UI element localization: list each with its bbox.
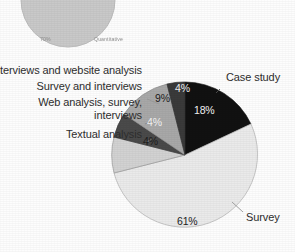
percent-web-analysis-survey-interviews: 4% <box>147 116 162 128</box>
figure-canvas: 70% Quantitative Interviews and w <box>0 0 295 252</box>
label-web-analysis-line-2: interviews <box>2 109 142 122</box>
label-web-analysis-line-1: Web analysis, survey, <box>2 96 142 109</box>
percent-survey-and-interviews: 9% <box>155 92 170 104</box>
percent-case-study: 18% <box>194 104 214 116</box>
percent-textual-analysis: 4% <box>143 135 158 147</box>
research-methods-pie-chart: Interviews and website analysis Survey a… <box>0 0 295 252</box>
label-textual-analysis: Textual analysis <box>66 128 142 141</box>
percent-survey: 61% <box>177 215 197 227</box>
label-survey-and-interviews: Survey and interviews <box>36 80 142 93</box>
label-web-analysis-survey-interviews: Web analysis, survey, interviews <box>2 96 142 121</box>
percent-interviews-and-website-analysis: 4% <box>175 82 190 94</box>
label-survey: Survey <box>246 211 280 224</box>
label-case-study: Case study <box>226 71 280 84</box>
label-interviews-and-website-analysis: Interviews and website analysis <box>0 64 142 77</box>
